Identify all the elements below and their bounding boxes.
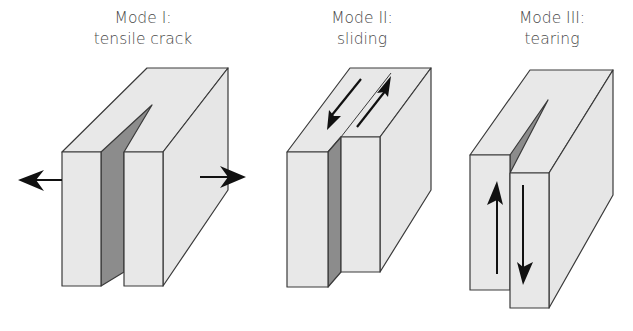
mode-3-block bbox=[470, 70, 613, 308]
mode-2-block bbox=[287, 68, 431, 287]
fracture-modes-diagram bbox=[0, 0, 633, 331]
mode-2-crack bbox=[328, 137, 341, 287]
